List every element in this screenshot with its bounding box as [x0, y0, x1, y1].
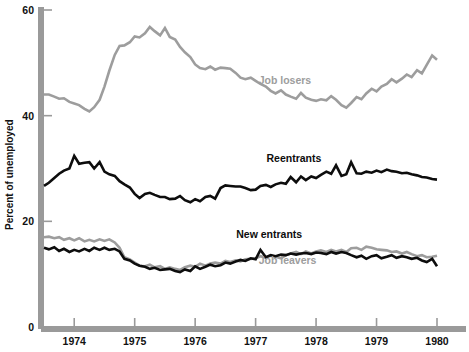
series-label-reentrants: Reentrants	[266, 152, 321, 164]
y-tick-label: 20	[22, 215, 34, 227]
x-tick-label: 1974	[63, 335, 87, 347]
series-line-job-losers	[44, 27, 437, 112]
x-tick-label: 1976	[183, 335, 207, 347]
y-axis-title: Percent of unemployed	[4, 119, 15, 230]
series-label-job-losers: Job losers	[259, 74, 312, 86]
x-tick-label: 1980	[425, 335, 449, 347]
x-tick-label: 1975	[123, 335, 147, 347]
axes	[41, 7, 466, 329]
series-label-job-leavers: Job leavers	[259, 254, 317, 266]
y-tick-label: 60	[22, 4, 34, 16]
y-tick-label: 40	[22, 110, 34, 122]
line-chart: 0204060 1974197519761977197819791980 Per…	[0, 0, 469, 352]
x-tick-label: 1978	[304, 335, 328, 347]
x-tick-label: 1977	[244, 335, 268, 347]
series-labels: Job losersReentrantsJob leaversNew entra…	[236, 74, 321, 266]
series-line-job-leavers	[44, 237, 437, 270]
series-line-new-entrants	[44, 247, 437, 272]
series-label-new-entrants: New entrants	[236, 228, 302, 240]
x-axis-tick-labels: 1974197519761977197819791980	[63, 335, 449, 347]
x-tick-label: 1979	[365, 335, 389, 347]
chart-container: 0204060 1974197519761977197819791980 Per…	[0, 0, 469, 352]
series-line-reentrants	[44, 156, 437, 202]
y-axis-tick-labels: 0204060	[22, 4, 34, 333]
y-tick-label: 0	[28, 321, 34, 333]
